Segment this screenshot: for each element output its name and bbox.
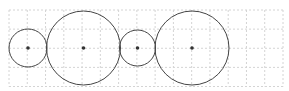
dashed-grid: [9, 10, 283, 87]
diagram-canvas: [0, 0, 289, 91]
circle-1-center-dot: [26, 46, 30, 50]
circle-3-center-dot: [136, 46, 140, 50]
circle-4-center-dot: [190, 46, 194, 50]
circle-2-center-dot: [82, 46, 86, 50]
